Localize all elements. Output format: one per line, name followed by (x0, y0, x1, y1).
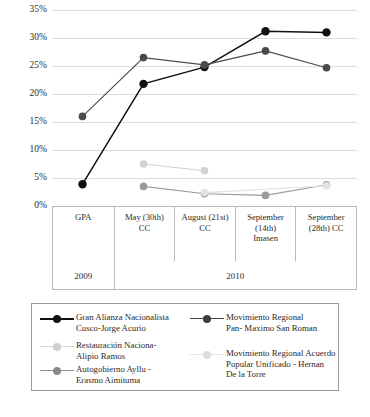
series-line (205, 186, 327, 193)
y-axis-tick-label: 30% (7, 33, 47, 43)
x-axis-table: GPAMay (30th) CCAugust (21st) CCSeptembe… (52, 206, 357, 290)
legend-swatch-icon (190, 349, 224, 360)
data-point-marker (262, 192, 270, 200)
series-line (144, 164, 205, 171)
y-axis-tick-label: 35% (7, 5, 47, 15)
x-axis-category-cell: GPA (53, 207, 114, 261)
y-axis-tick-label: 15% (7, 117, 47, 127)
x-axis-year-cell: 2009 (53, 261, 114, 290)
legend-item: Gran Alianza Nacionalista Cusco-Jorge Ac… (40, 312, 188, 333)
data-point-marker (140, 54, 148, 62)
data-point-marker (261, 27, 269, 35)
data-point-marker (201, 189, 209, 197)
legend-item: Autogobierno Ayllu - Erasmo Aimituma (40, 364, 188, 385)
legend-swatch-icon (40, 365, 74, 376)
legend-swatch-icon (190, 313, 224, 324)
data-point-marker (140, 160, 148, 168)
series-line (144, 185, 327, 196)
data-point-marker (140, 183, 148, 191)
x-axis-category-cell: September (28th) CC (295, 207, 356, 261)
series-line (83, 31, 327, 184)
y-axis-tick-label: 10% (7, 145, 47, 155)
x-axis-year-row: 20092010 (53, 261, 356, 290)
legend: Gran Alianza Nacionalista Cusco-Jorge Ac… (31, 303, 339, 391)
data-point-marker (323, 64, 331, 72)
x-axis-category-cell: September (14th) Imasen (235, 207, 296, 261)
legend-item: Restauración Naciona- Alipio Ramos (40, 340, 188, 361)
data-point-marker (262, 47, 270, 55)
legend-swatch-icon (40, 313, 74, 324)
x-axis-category-cell: May (30th) CC (114, 207, 175, 261)
legend-label: Movimiento Regional Pan- Maximo San Roma… (224, 312, 317, 333)
data-point-marker (139, 80, 147, 88)
series-lines-and-markers (52, 10, 357, 206)
data-point-marker (201, 61, 209, 69)
legend-label: Gran Alianza Nacionalista Cusco-Jorge Ac… (74, 312, 169, 333)
data-point-marker (322, 28, 330, 36)
line-chart: 35%30%25%20%15%10%5%0% GPAMay (30th) CCA… (0, 0, 370, 417)
y-axis-tick-label: 5% (7, 173, 47, 183)
legend-item: Movimiento Regional Acuerdo Popular Unif… (190, 348, 336, 380)
legend-swatch-icon (40, 341, 74, 352)
y-axis-tick-label: 25% (7, 61, 47, 71)
data-point-marker (79, 113, 87, 121)
series-line (83, 51, 327, 117)
y-axis-tick-label: 20% (7, 89, 47, 99)
x-axis-category-cell: August (21st) CC (174, 207, 235, 261)
x-axis-event-row: GPAMay (30th) CCAugust (21st) CCSeptembe… (53, 207, 356, 261)
data-point-marker (323, 182, 331, 190)
y-axis-tick-label: 0% (7, 201, 47, 211)
legend-label: Movimiento Regional Acuerdo Popular Unif… (224, 348, 335, 380)
data-point-marker (201, 167, 209, 175)
x-axis-year-cell: 2010 (114, 261, 356, 290)
legend-label: Restauración Naciona- Alipio Ramos (74, 340, 156, 361)
plot-area (52, 10, 357, 206)
legend-item: Movimiento Regional Pan- Maximo San Roma… (190, 312, 336, 333)
data-point-marker (78, 180, 86, 188)
legend-label: Autogobierno Ayllu - Erasmo Aimituma (74, 364, 151, 385)
